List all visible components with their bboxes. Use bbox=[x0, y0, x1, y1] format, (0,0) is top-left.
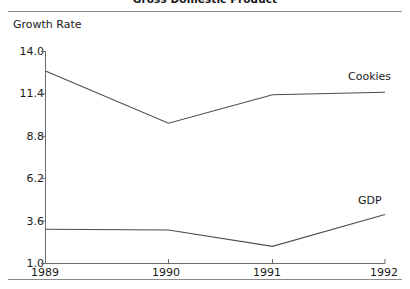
x-tick-marks bbox=[46, 259, 386, 264]
plot-area bbox=[0, 0, 410, 289]
chart-svg bbox=[0, 0, 410, 289]
series-line-gdp bbox=[46, 215, 386, 247]
y-tick-marks bbox=[41, 52, 45, 264]
chart-figure: Gross Domestic Product Growth Rate 14.0 … bbox=[0, 0, 410, 289]
series-line-cookies bbox=[46, 71, 386, 123]
